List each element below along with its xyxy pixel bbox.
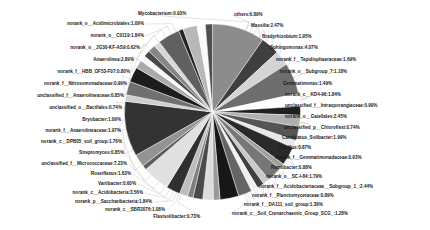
label-leader-line (167, 193, 180, 210)
pie-slice-label: unclassified_f__Anaerolineaceae:0.85% (37, 94, 124, 99)
pie-slice-label: Mycobacterium:0.93% (138, 12, 186, 17)
pie-slice-label: Ramlibacter:0.88% (271, 166, 312, 171)
pie-slice-label: Roseiflexus:1.63% (91, 172, 131, 177)
pie-slice-label: unclassified_f__Intrasporangiaceae:0.99% (285, 104, 377, 109)
pie-slice-label: norank_o__Gaiellales:2.45% (285, 115, 347, 120)
pie-slice-label: norank_f__Gemmatimonadaceae:0.93% (275, 156, 362, 161)
pie-slice-label: others:6.89% (234, 13, 263, 18)
pie-slice-label: Anaerolinea:2.89% (93, 58, 134, 63)
pie-chart-canvas (0, 0, 430, 230)
pie-slice-label: Flavisolibacter:0.73% (153, 215, 200, 220)
pie-chart-figure: norank_o__Acidimicrobiales:1.09%norank_o… (0, 0, 430, 230)
pie-slice-label: norank_c__Acidobacteria:3.56% (73, 191, 143, 196)
pie-slice-label: Sphingomonas:4.07% (270, 46, 318, 51)
pie-slice-label: norank_o__SC-I-84:1.79% (266, 175, 322, 180)
pie-slice-label: norank_p__Saccharibacteria:1.84% (75, 200, 152, 205)
pie-slice-label: norank_c__KD4-96:1.84% (285, 93, 341, 98)
label-leader-line (146, 26, 172, 36)
pie-slice-label: Massilia:2.47% (251, 24, 283, 29)
pie-slice-label: norank_f__Acidobacteriaceae__Subgroup_1_… (259, 185, 373, 190)
pie-slice-label: norank_c__SBR2076:1.08% (105, 208, 165, 213)
pie-slice-label: norank_c__Soil_Crenarchaeotic_Group_SCG_… (232, 212, 348, 217)
pie-slice-label: norank_f__Anaerolineaceae:1.97% (45, 129, 121, 134)
pie-slice-label: unclassified_p__Chloroflexi:0.74% (284, 126, 360, 131)
pie-slice-label: norank_o__C0119:1.84% (90, 34, 144, 39)
pie-slice-label: Bradyrhizobium:1.95% (262, 35, 312, 40)
pie-slice-label: norank_f__Planctomycetaceae:0.89% (252, 194, 334, 199)
pie-slice-label: norank_c__DPB05_soil_group:1.76% (41, 140, 122, 145)
pie-slice-label: unclassified_f__Micrococcaceae:7.23% (41, 162, 127, 167)
pie-slice-label: Variibacter:0.60% (98, 182, 136, 187)
pie-slice-label: Candidatus_Solibacter:1.99% (282, 136, 346, 141)
pie-slice-label: Bryobacter:1.09% (82, 118, 121, 123)
pie-slice-label: norank_o__Subgroup_7:1.18% (280, 70, 347, 75)
label-leader-line (145, 190, 174, 199)
pie-slice-label: Streptomyces:0.85% (79, 151, 124, 156)
pie-slice-label: norank_o__JG30-KF-AS9:0.62% (70, 46, 140, 51)
pie-slice-label: norank_f__Tepidisphaeraceae:1.69% (276, 58, 356, 63)
pie-slice-label: Gemmatimonas:1.49% (283, 82, 332, 87)
pie-slice-label: norank_f__DA111_soil_group:1.36% (244, 203, 323, 208)
pie-slice-label: norank_f__HBB_OF53-F07:0.80% (57, 70, 130, 75)
pie-slice-label: unclassified_o__Bacillales:0.74% (49, 106, 122, 111)
label-leader-line (146, 24, 176, 33)
pie-slice-label: Bacillus:0.87% (279, 146, 311, 151)
pie-slice-label: norank_f__Nitrosomonadaceae:0.99% (44, 82, 127, 87)
pie-slice-label: norank_o__Acidimicrobiales:1.09% (67, 22, 144, 27)
